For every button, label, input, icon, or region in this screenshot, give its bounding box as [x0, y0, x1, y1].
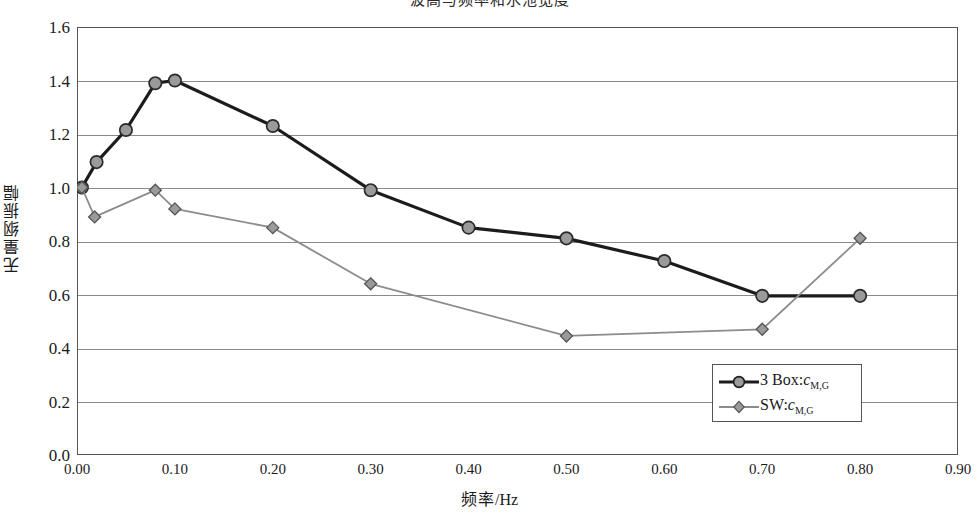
x-tick-label: 0.90: [928, 462, 979, 477]
x-axis-title: 频率/Hz: [0, 486, 979, 510]
x-tick-label: 0.60: [634, 462, 694, 477]
x-tick-label: 0.10: [145, 462, 205, 477]
legend-item-3box: 3 Box:cM,G: [718, 369, 856, 394]
circle-marker: [364, 184, 376, 196]
circle-marker: [756, 290, 768, 302]
legend-label-sw-main: SW:: [760, 396, 788, 413]
y-tick-label: 0.6: [24, 286, 70, 303]
x-tick-label: 0.20: [243, 462, 303, 477]
legend-label-3box-main: 3 Box:: [760, 371, 803, 388]
x-tick-label: 0.80: [830, 462, 890, 477]
diamond-marker: [89, 211, 101, 223]
circle-marker: [149, 77, 161, 89]
circle-marker: [267, 120, 279, 132]
diamond-marker: [560, 330, 572, 342]
y-tick-label: 0.2: [24, 393, 70, 410]
x-tick-label: 0.00: [47, 462, 107, 477]
circle-marker: [169, 74, 181, 86]
y-tick-label: 1.2: [24, 126, 70, 143]
x-axis-unit-text: /Hz: [495, 491, 518, 508]
x-tick-label: 0.50: [536, 462, 596, 477]
legend-label-sw-var: c: [788, 396, 795, 413]
diamond-marker-icon: [718, 398, 760, 416]
series-line: [82, 81, 860, 296]
x-tick-label: 0.30: [341, 462, 401, 477]
circle-marker: [90, 156, 102, 168]
diamond-marker: [365, 278, 377, 290]
series-3box: [77, 74, 866, 302]
x-axis-title-text: 频率: [461, 490, 495, 509]
circle-marker: [462, 221, 474, 233]
legend-label-3box: 3 Box:cM,G: [760, 372, 829, 391]
y-tick-label: 0.4: [24, 340, 70, 357]
circle-marker: [120, 124, 132, 136]
legend-label-sw: SW:cM,G: [760, 397, 814, 416]
circle-marker: [658, 255, 670, 267]
circle-marker: [560, 232, 572, 244]
legend-item-sw: SW:cM,G: [718, 394, 856, 419]
legend-label-sw-sub: M,G: [795, 405, 814, 416]
legend-label-3box-sub: M,G: [810, 380, 829, 391]
chart-legend: 3 Box:cM,G SW:cM,G: [712, 364, 862, 422]
circle-marker-icon: [718, 373, 760, 391]
diamond-marker: [267, 222, 279, 234]
series-sw: [77, 182, 866, 342]
y-tick-label: 0.8: [24, 233, 70, 250]
y-tick-label: 1.4: [24, 72, 70, 89]
x-tick-label: 0.40: [439, 462, 499, 477]
series-line: [82, 188, 860, 336]
circle-marker: [854, 290, 866, 302]
y-tick-label: 1.0: [24, 179, 70, 196]
x-tick-label: 0.70: [732, 462, 792, 477]
chart-page: 波高与频率和水池宽度 无量纲振幅 0.00.20.40.60.81.01.21.…: [0, 0, 979, 512]
y-tick-label: 1.6: [24, 19, 70, 36]
